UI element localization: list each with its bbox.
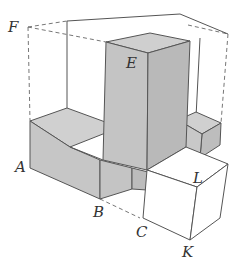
left-arm-prism	[30, 108, 108, 199]
label-E: E	[125, 54, 137, 72]
label-K: K	[181, 243, 194, 261]
solid-figure-diagram: F E A B C K L	[0, 0, 242, 273]
label-F: F	[7, 18, 19, 36]
label-B: B	[92, 203, 104, 221]
label-A: A	[13, 158, 26, 176]
label-C: C	[136, 223, 148, 241]
label-L: L	[192, 169, 203, 187]
tall-column-prism	[103, 33, 190, 170]
